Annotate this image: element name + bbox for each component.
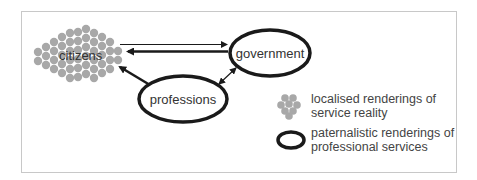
legend-item-2-line2: professional services: [311, 140, 428, 154]
legend-item-1-line2: service reality: [311, 106, 388, 120]
legend-item-1-line1: localised renderings of: [311, 92, 437, 106]
legend-item-2-line1: paternalistic renderings of: [311, 126, 455, 140]
legend-ellipse-icon: [278, 132, 304, 148]
government-label: government: [236, 46, 305, 61]
diagram-canvas: citizens government professions localise…: [0, 0, 477, 180]
professions-label: professions: [150, 92, 217, 107]
citizens-label: citizens: [59, 48, 103, 63]
